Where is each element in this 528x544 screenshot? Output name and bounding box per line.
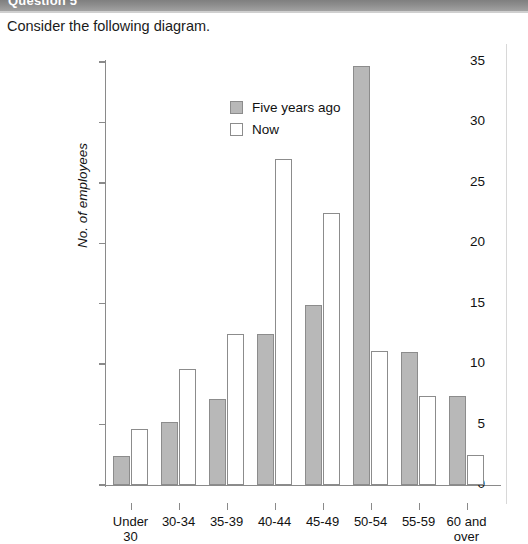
header-divider <box>0 11 528 13</box>
y-tick-label: 20 <box>470 234 485 249</box>
chart-legend: Five years agoNow <box>230 98 341 142</box>
y-tick-label: 35 <box>470 53 485 68</box>
legend-item: Five years ago <box>230 98 341 117</box>
x-tick-mark <box>275 503 276 510</box>
y-axis-title: No. of employees <box>75 143 90 248</box>
prompt-text: Consider the following diagram. <box>7 18 210 34</box>
x-tick-mark <box>227 503 228 510</box>
x-tick-mark <box>179 503 180 510</box>
x-tick-mark <box>131 503 132 510</box>
y-tick-label: 15 <box>470 295 485 310</box>
y-tick-mark <box>99 122 105 123</box>
x-tick-mark <box>467 503 468 510</box>
bar-now <box>371 351 388 485</box>
x-tick-mark <box>323 503 324 510</box>
x-tick-mark <box>419 503 420 510</box>
bar-now <box>467 455 484 485</box>
x-tick-mark <box>371 503 372 510</box>
legend-label: Five years ago <box>252 100 341 115</box>
x-axis-line <box>105 485 501 486</box>
y-tick-mark <box>99 484 105 485</box>
y-tick-label: 10 <box>470 355 485 370</box>
y-tick-mark <box>99 363 105 364</box>
question-number-label: Question 5 <box>8 0 77 8</box>
y-tick-mark <box>99 61 105 62</box>
y-tick-label: 25 <box>470 174 485 189</box>
legend-item: Now <box>230 120 341 139</box>
bar-chart: No. of employees 05101520253035 Under 30… <box>0 44 528 519</box>
bar-now <box>323 213 340 485</box>
y-tick-label: 5 <box>477 416 485 431</box>
legend-swatch-now <box>230 123 243 136</box>
plot-area: No. of employees 05101520253035 Under 30… <box>105 62 495 485</box>
y-tick-mark <box>99 243 105 244</box>
bar-five-years-ago <box>161 422 178 485</box>
question-header-band: Question 5 <box>0 0 528 11</box>
bar-now <box>227 334 244 485</box>
bar-five-years-ago <box>353 66 370 485</box>
bar-now <box>131 429 148 485</box>
y-tick-mark <box>99 182 105 183</box>
legend-label: Now <box>252 122 279 137</box>
y-tick-mark <box>99 303 105 304</box>
bar-now <box>419 396 436 485</box>
bar-five-years-ago <box>113 456 130 485</box>
bar-five-years-ago <box>305 305 322 485</box>
legend-swatch-five-years-ago <box>230 101 243 114</box>
bar-now <box>275 159 292 485</box>
bar-five-years-ago <box>257 334 274 485</box>
bar-five-years-ago <box>401 352 418 485</box>
x-axis-category-label: 60 and over <box>439 514 495 544</box>
y-tick-label: 30 <box>470 113 485 128</box>
y-tick-mark <box>99 424 105 425</box>
page-edge-line <box>506 44 507 504</box>
bar-five-years-ago <box>209 399 226 485</box>
bar-now <box>179 369 196 485</box>
bar-five-years-ago <box>449 396 466 485</box>
